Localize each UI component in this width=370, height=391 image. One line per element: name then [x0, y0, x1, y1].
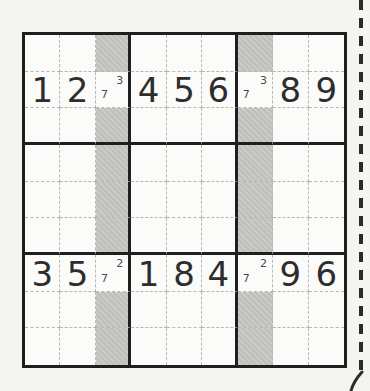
sudoku-cell[interactable]: [131, 218, 166, 255]
sudoku-cell[interactable]: 1: [131, 255, 166, 292]
cell-digit: 8: [173, 257, 195, 291]
sudoku-cell[interactable]: [309, 145, 344, 182]
sudoku-cell[interactable]: [309, 292, 344, 329]
candidate-mark: 7: [101, 273, 108, 284]
sudoku-cell[interactable]: [96, 292, 131, 329]
sudoku-cell[interactable]: [309, 35, 344, 72]
sudoku-cell[interactable]: [60, 108, 95, 145]
sudoku-cell[interactable]: [202, 108, 237, 145]
sudoku-cell[interactable]: [238, 328, 273, 365]
sudoku-cell[interactable]: [238, 35, 273, 72]
sudoku-cell[interactable]: [60, 328, 95, 365]
cell-digit: 4: [138, 73, 160, 107]
sudoku-cell[interactable]: [202, 218, 237, 255]
candidate-mark: 3: [260, 75, 267, 86]
sudoku-cell[interactable]: [25, 108, 60, 145]
sudoku-cell[interactable]: [131, 182, 166, 219]
sudoku-cell[interactable]: 6: [202, 72, 237, 109]
sudoku-cell[interactable]: [309, 218, 344, 255]
sudoku-cell[interactable]: 8: [167, 255, 202, 292]
sudoku-cell[interactable]: 27: [238, 255, 273, 292]
sudoku-cell[interactable]: [309, 108, 344, 145]
sudoku-cell[interactable]: [238, 292, 273, 329]
candidate-mark: 7: [243, 89, 250, 100]
sudoku-cell[interactable]: [202, 145, 237, 182]
sudoku-cell[interactable]: [238, 108, 273, 145]
sudoku-cell[interactable]: [96, 108, 131, 145]
sudoku-cell[interactable]: [167, 328, 202, 365]
cell-digit: 1: [31, 73, 53, 107]
sudoku-cell[interactable]: [238, 145, 273, 182]
sudoku-cell[interactable]: [96, 328, 131, 365]
sudoku-cell[interactable]: [131, 145, 166, 182]
sudoku-cell[interactable]: 9: [309, 72, 344, 109]
sudoku-cell[interactable]: [131, 108, 166, 145]
sudoku-cell[interactable]: [202, 182, 237, 219]
sudoku-cell[interactable]: [273, 328, 308, 365]
sudoku-cell[interactable]: [60, 218, 95, 255]
sudoku-cell[interactable]: [273, 218, 308, 255]
sudoku-cell[interactable]: [273, 35, 308, 72]
sudoku-cell[interactable]: [238, 182, 273, 219]
cell-digit: 9: [315, 73, 337, 107]
sudoku-cell[interactable]: [309, 328, 344, 365]
sudoku-cell[interactable]: [25, 292, 60, 329]
sudoku-cell[interactable]: [25, 35, 60, 72]
sudoku-cell[interactable]: 6: [309, 255, 344, 292]
sudoku-cell[interactable]: [25, 182, 60, 219]
sudoku-cell[interactable]: [96, 218, 131, 255]
sudoku-cell[interactable]: [273, 182, 308, 219]
cut-line-curve: [347, 370, 365, 391]
sudoku-cell[interactable]: [309, 182, 344, 219]
candidate-mark: 3: [116, 75, 123, 86]
sudoku-cell[interactable]: [167, 145, 202, 182]
sudoku-cell[interactable]: [273, 292, 308, 329]
sudoku-cell[interactable]: [60, 35, 95, 72]
cell-digit: 4: [208, 257, 230, 291]
sudoku-cell[interactable]: [202, 328, 237, 365]
sudoku-cell[interactable]: [96, 182, 131, 219]
candidate-mark: 2: [260, 258, 267, 269]
sudoku-cell[interactable]: [60, 292, 95, 329]
cell-digit: 1: [138, 257, 160, 291]
sudoku-cell[interactable]: 5: [167, 72, 202, 109]
sudoku-cell[interactable]: [96, 145, 131, 182]
sudoku-cell[interactable]: [202, 292, 237, 329]
cell-digit: 3: [31, 257, 53, 291]
sudoku-cell[interactable]: [96, 35, 131, 72]
sudoku-cell[interactable]: [25, 145, 60, 182]
sudoku-cell[interactable]: [273, 145, 308, 182]
sudoku-cell[interactable]: 5: [60, 255, 95, 292]
sudoku-cell[interactable]: [273, 108, 308, 145]
sudoku-cell[interactable]: [25, 218, 60, 255]
sudoku-cell[interactable]: [167, 108, 202, 145]
cell-digit: 6: [208, 73, 230, 107]
sudoku-cell[interactable]: 9: [273, 255, 308, 292]
sudoku-cell[interactable]: [167, 218, 202, 255]
dashed-cut-line: [359, 0, 363, 372]
sudoku-cell[interactable]: 4: [131, 72, 166, 109]
sudoku-cell[interactable]: 1: [25, 72, 60, 109]
sudoku-cell[interactable]: [60, 145, 95, 182]
sudoku-cell[interactable]: 37: [238, 72, 273, 109]
sudoku-cell[interactable]: [167, 292, 202, 329]
sudoku-cell[interactable]: [25, 328, 60, 365]
sudoku-cell[interactable]: 4: [202, 255, 237, 292]
sudoku-cell[interactable]: 2: [60, 72, 95, 109]
sudoku-cell[interactable]: [60, 182, 95, 219]
sudoku-cell[interactable]: 27: [96, 255, 131, 292]
sudoku-cell[interactable]: [131, 328, 166, 365]
sudoku-cell[interactable]: [238, 218, 273, 255]
sudoku-cell[interactable]: [167, 35, 202, 72]
sudoku-cell[interactable]: [131, 35, 166, 72]
sudoku-cell[interactable]: [167, 182, 202, 219]
sudoku-cell[interactable]: [202, 35, 237, 72]
candidate-mark: 7: [101, 89, 108, 100]
sudoku-cell[interactable]: 8: [273, 72, 308, 109]
cell-digit: 9: [280, 257, 302, 291]
cell-digit: 2: [67, 73, 89, 107]
sudoku-cell[interactable]: [131, 292, 166, 329]
sudoku-cell[interactable]: 37: [96, 72, 131, 109]
sudoku-cell[interactable]: 3: [25, 255, 60, 292]
cell-digit: 6: [315, 257, 337, 291]
